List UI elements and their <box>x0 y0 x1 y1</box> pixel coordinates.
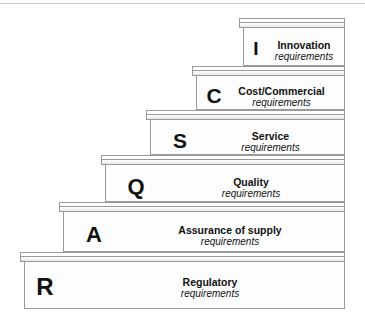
step-title: Regulatory <box>80 276 340 288</box>
step-labels: Cost/Commercial requirements <box>225 85 338 109</box>
requirements-staircase-diagram: I Innovation requirements C Cost/Commerc… <box>0 0 365 318</box>
step-letter: S <box>170 130 190 151</box>
step-letter: R <box>33 275 57 299</box>
step-title: Service <box>202 130 339 142</box>
step-letter: C <box>204 85 224 106</box>
step-subtitle: requirements <box>202 142 339 154</box>
step-subtitle: requirements <box>265 51 343 63</box>
step-labels: Regulatory requirements <box>80 276 340 300</box>
step-letter: Q <box>125 176 147 198</box>
step-tread <box>192 66 345 76</box>
top-divider-rule <box>0 3 365 4</box>
step-tread <box>101 155 345 165</box>
step-subtitle: requirements <box>119 236 341 248</box>
step-cost-commercial: C Cost/Commercial requirements <box>192 66 345 110</box>
step-innovation: I Innovation requirements <box>239 18 345 66</box>
step-assurance-of-supply: A Assurance of supply requirements <box>59 202 345 252</box>
step-service: S Service requirements <box>146 110 345 155</box>
step-title: Cost/Commercial <box>225 85 338 97</box>
step-regulatory: R Regulatory requirements <box>20 252 345 309</box>
step-labels: Assurance of supply requirements <box>119 224 341 248</box>
step-labels: Quality requirements <box>161 176 341 200</box>
step-title: Innovation <box>265 39 343 51</box>
step-labels: Service requirements <box>202 130 339 154</box>
step-tread <box>239 18 345 28</box>
step-tread <box>146 110 345 120</box>
step-title: Quality <box>161 176 341 188</box>
step-tread <box>20 252 345 262</box>
step-subtitle: requirements <box>161 188 341 200</box>
step-title: Assurance of supply <box>119 224 341 236</box>
step-labels: Innovation requirements <box>265 39 343 63</box>
step-tread <box>59 202 345 212</box>
step-quality: Q Quality requirements <box>101 155 345 202</box>
step-subtitle: requirements <box>80 288 340 300</box>
step-subtitle: requirements <box>225 97 338 109</box>
step-letter: I <box>249 39 263 58</box>
step-letter: A <box>83 224 105 246</box>
